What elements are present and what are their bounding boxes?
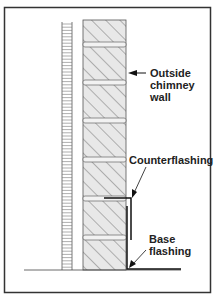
label-counterflashing: Counterflashing — [129, 154, 213, 166]
outside-chimney-wall — [83, 20, 126, 270]
label-base-flashing-2: flashing — [149, 245, 191, 257]
chimney-flashing-diagram: Outside chimney wall Counterflashing Bas… — [0, 0, 217, 299]
label-outside-wall-1: Outside — [150, 67, 191, 79]
label-outside-wall-2: chimney — [150, 79, 196, 91]
label-outside-wall-3: wall — [149, 91, 171, 103]
label-base-flashing-1: Base — [149, 233, 175, 245]
